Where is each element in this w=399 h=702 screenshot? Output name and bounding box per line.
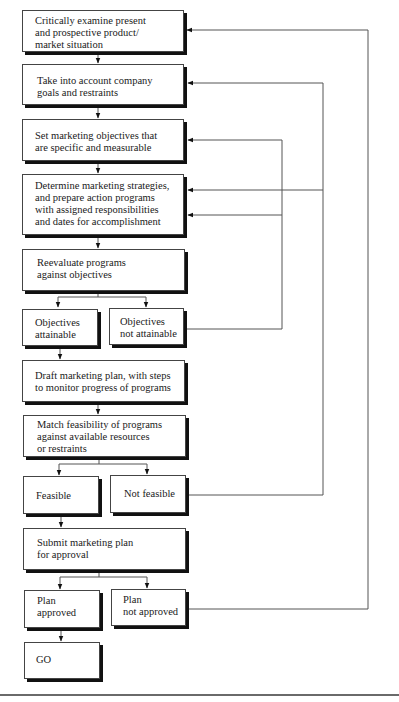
node-text: goals and restraints: [37, 87, 183, 99]
node-text: Reevaluate programs: [37, 257, 184, 269]
node-feasible: Feasible: [23, 476, 99, 514]
node-match-feasibility: Match feasibility of programs against av…: [23, 415, 186, 457]
node-text: Objectives: [35, 317, 97, 329]
node-text: for approval: [37, 549, 185, 561]
node-text: Submit marketing plan: [37, 537, 185, 549]
node-draft-plan: Draft marketing plan, with steps to moni…: [22, 360, 185, 402]
node-not-feasible: Not feasible: [110, 475, 186, 513]
node-text: Match feasibility of programs: [37, 419, 185, 431]
node-text: not attainable: [120, 328, 183, 340]
node-text: and prepare action programs: [35, 192, 183, 204]
node-text: Critically examine present: [35, 15, 183, 27]
node-text: Draft marketing plan, with steps: [35, 370, 184, 382]
node-set-objectives: Set marketing objectives that are specif…: [22, 119, 184, 161]
node-determine-strategies: Determine marketing strategies, and prep…: [22, 174, 184, 235]
node-text: GO: [36, 654, 99, 666]
node-text: with assigned responsibilities: [35, 204, 183, 216]
node-company-goals: Take into account company goals and rest…: [22, 64, 184, 105]
node-text: to monitor progress of programs: [35, 382, 184, 394]
node-text: market situation: [35, 39, 183, 51]
node-text: Not feasible: [124, 488, 185, 500]
node-text: Take into account company: [37, 75, 183, 87]
node-submit-plan: Submit marketing plan for approval: [23, 528, 186, 570]
node-text: Plan: [37, 595, 99, 607]
node-text: or restraints: [37, 443, 185, 455]
node-examine-situation: Critically examine present and prospecti…: [22, 10, 184, 52]
node-text: approved: [37, 607, 99, 619]
node-text: Feasible: [36, 490, 98, 502]
node-go: GO: [24, 642, 100, 679]
node-text: Set marketing objectives that: [35, 130, 183, 142]
node-text: Objectives: [120, 316, 183, 328]
node-plan-approved: Plan approved: [24, 590, 100, 628]
node-text: Determine marketing strategies,: [35, 180, 183, 192]
node-objectives-not-attainable: Objectives not attainable: [109, 308, 184, 345]
node-plan-not-approved: Plan not approved: [111, 589, 186, 626]
node-text: against objectives: [37, 269, 184, 281]
node-text: not approved: [123, 606, 185, 618]
node-text: attainable: [35, 329, 97, 341]
node-text: against available resources: [37, 431, 185, 443]
bottom-rule-divider: [0, 694, 399, 696]
node-reevaluate-programs: Reevaluate programs against objectives: [22, 249, 185, 291]
node-text: and dates for accomplishment: [35, 216, 183, 228]
node-text: and prospective product/: [35, 27, 183, 39]
node-text: are specific and measurable: [35, 142, 183, 154]
node-text: Plan: [123, 594, 185, 606]
node-objectives-attainable: Objectives attainable: [22, 309, 98, 346]
